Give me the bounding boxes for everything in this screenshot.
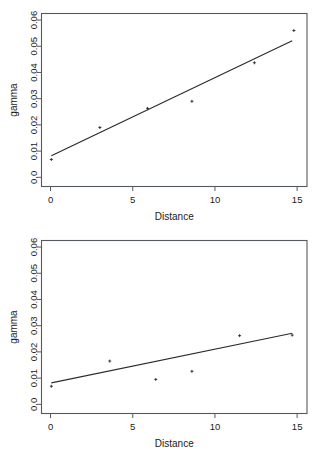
y-tick-label: 0.02	[28, 116, 39, 135]
x-tick-label: 0	[48, 421, 53, 432]
data-point	[154, 378, 157, 381]
x-tick-label: 5	[130, 421, 135, 432]
x-tick-label: 10	[210, 194, 221, 205]
data-point	[190, 370, 193, 373]
x-tick-label: 5	[130, 194, 135, 205]
fitted-regression-line	[51, 41, 292, 156]
x-axis-title: Distance	[155, 211, 194, 222]
bottom-scatter-panel: 0510150.00.010.020.030.040.050.06Distanc…	[0, 227, 321, 454]
x-tick-label: 10	[210, 421, 221, 432]
y-tick-label: 0.06	[28, 11, 39, 30]
y-tick-label: 0.01	[28, 142, 39, 161]
y-tick-label: 0.03	[28, 89, 39, 108]
y-tick-label: 0.04	[28, 290, 39, 309]
top-plot-canvas: 0510150.00.010.020.030.040.050.06Distanc…	[0, 0, 321, 227]
plot-frame	[42, 241, 308, 414]
y-tick-label: 0.0	[28, 171, 39, 184]
y-tick-label: 0.06	[28, 238, 39, 257]
y-tick-label: 0.01	[28, 369, 39, 388]
data-point	[108, 360, 111, 363]
x-tick-label: 0	[48, 194, 53, 205]
plot-frame	[42, 14, 308, 187]
data-point	[253, 61, 256, 64]
y-tick-label: 0.0	[28, 398, 39, 411]
data-point	[292, 29, 295, 32]
y-tick-label: 0.02	[28, 343, 39, 362]
y-tick-label: 0.05	[28, 264, 39, 283]
y-tick-label: 0.04	[28, 63, 39, 82]
x-tick-label: 15	[292, 194, 303, 205]
x-tick-label: 15	[292, 421, 303, 432]
data-point	[98, 126, 101, 129]
data-point	[238, 334, 241, 337]
fitted-regression-line	[51, 333, 292, 383]
y-tick-label: 0.03	[28, 316, 39, 335]
y-tick-label: 0.05	[28, 37, 39, 56]
x-axis-title: Distance	[155, 438, 194, 449]
y-axis-title: gamma	[8, 83, 19, 117]
y-axis-title: gamma	[8, 310, 19, 344]
data-point	[190, 100, 193, 103]
data-point	[50, 385, 53, 388]
top-scatter-panel: 0510150.00.010.020.030.040.050.06Distanc…	[0, 0, 321, 227]
data-point	[50, 158, 53, 161]
bottom-plot-canvas: 0510150.00.010.020.030.040.050.06Distanc…	[0, 227, 321, 454]
